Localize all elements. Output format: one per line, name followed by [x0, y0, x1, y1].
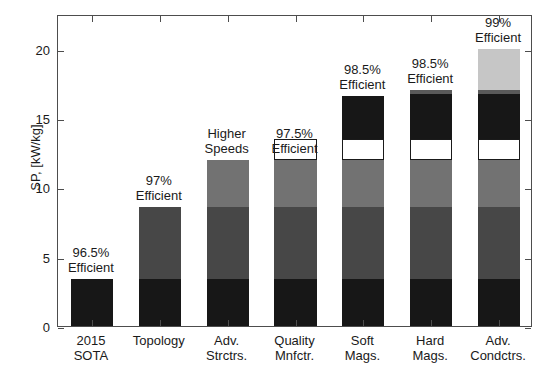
x-tick-label: Topology [133, 333, 185, 348]
x-tick-mark-top [228, 16, 229, 22]
plot-area [57, 15, 532, 327]
y-tick-label: 0 [10, 320, 50, 335]
x-tick-label-line: Mags. [413, 348, 448, 363]
bar-segment [342, 160, 384, 207]
x-tick-label: SoftMags. [345, 333, 380, 363]
y-tick-label: 15 [10, 112, 50, 127]
bar-segment [478, 279, 520, 326]
chart-figure: SP, [kW/kg] 05101520 2015SOTATopologyAdv… [0, 0, 555, 380]
x-tick-label: QualityMnfctr. [274, 333, 314, 363]
x-tick-mark [228, 320, 229, 326]
x-tick-label-line: Adv. [206, 333, 247, 348]
y-tick-mark [58, 259, 64, 260]
bar-segment [410, 160, 452, 207]
bar-segment [478, 90, 520, 94]
bar-annotation-line: Efficient [475, 30, 521, 45]
bar-segment [478, 94, 520, 138]
y-tick-label: 5 [10, 250, 50, 265]
x-tick-mark-top [160, 16, 161, 22]
y-tick-mark-right [525, 328, 531, 329]
x-tick-mark [499, 320, 500, 326]
bar-segment [410, 207, 452, 279]
x-tick-mark-top [431, 16, 432, 22]
bar-annotation-line: Efficient [407, 71, 453, 86]
bar-segment [410, 139, 452, 160]
bar-segment [342, 279, 384, 326]
y-tick-mark-right [525, 120, 531, 121]
bar-segment [410, 90, 452, 94]
bar-segment [274, 207, 316, 279]
bar-segment [342, 207, 384, 279]
bar-segment [478, 207, 520, 279]
bar-segment [139, 207, 181, 279]
bar-annotation-line: Higher [205, 126, 249, 141]
bar-segment [342, 139, 384, 160]
bar-segment [478, 160, 520, 207]
x-tick-mark-top [296, 16, 297, 22]
bar-annotation-line: 96.5% [68, 245, 114, 260]
x-tick-mark [92, 320, 93, 326]
y-tick-mark-right [525, 189, 531, 190]
y-tick-label: 10 [10, 181, 50, 196]
bar-segment [207, 160, 249, 207]
x-tick-mark [296, 320, 297, 326]
y-tick-label: 20 [10, 42, 50, 57]
bar-3[interactable] [274, 14, 316, 326]
x-tick-label: 2015SOTA [74, 333, 108, 363]
x-tick-label-line: Topology [133, 333, 185, 348]
bar-6[interactable] [478, 14, 520, 326]
y-tick-mark [58, 51, 64, 52]
x-tick-label: Adv.Strctrs. [206, 333, 247, 363]
x-tick-label-line: Soft [345, 333, 380, 348]
bar-segment [410, 279, 452, 326]
bar-annotation-line: 98.5% [407, 56, 453, 71]
bar-segment [139, 279, 181, 326]
bar-annotation: 97.5%Efficient [271, 126, 317, 156]
x-tick-label-line: Condctrs. [470, 348, 526, 363]
y-tick-mark [58, 189, 64, 190]
x-tick-label-line: Quality [274, 333, 314, 348]
bar-annotation-line: Efficient [136, 188, 182, 203]
y-tick-mark-right [525, 51, 531, 52]
bar-segment [207, 207, 249, 279]
bar-annotation: HigherSpeeds [205, 126, 249, 156]
bar-4[interactable] [342, 14, 384, 326]
x-tick-label-line: Hard [413, 333, 448, 348]
x-tick-label-line: 2015 [74, 333, 108, 348]
x-tick-label-line: SOTA [74, 348, 108, 363]
bar-annotation-line: Efficient [339, 77, 385, 92]
x-tick-label-line: Mags. [345, 348, 380, 363]
y-tick-mark [58, 120, 64, 121]
bar-segment [478, 49, 520, 91]
bar-segment [478, 139, 520, 160]
bar-annotation: 96.5%Efficient [68, 245, 114, 275]
bar-annotation: 98.5%Efficient [339, 62, 385, 92]
bar-2[interactable] [207, 14, 249, 326]
x-tick-label-line: Strctrs. [206, 348, 247, 363]
bar-annotation-line: Speeds [205, 141, 249, 156]
bar-segment [410, 94, 452, 138]
bar-segment [342, 96, 384, 139]
bar-annotation-line: 99% [475, 15, 521, 30]
x-tick-mark [363, 320, 364, 326]
y-axis-label: SP, [kW/kg] [28, 78, 43, 238]
bar-segment [71, 279, 113, 326]
x-tick-label-line: Adv. [470, 333, 526, 348]
x-tick-label: HardMags. [413, 333, 448, 363]
bar-segment [274, 160, 316, 207]
bar-annotation-line: 98.5% [339, 62, 385, 77]
bar-1[interactable] [139, 14, 181, 326]
bar-annotation: 97%Efficient [136, 173, 182, 203]
x-tick-label-line: Mnfctr. [274, 348, 314, 363]
x-tick-mark-top [92, 16, 93, 22]
bar-annotation: 98.5%Efficient [407, 56, 453, 86]
x-tick-mark [431, 320, 432, 326]
x-tick-mark [160, 320, 161, 326]
bar-annotation-line: Efficient [68, 260, 114, 275]
bar-segment [274, 279, 316, 326]
bar-0[interactable] [71, 14, 113, 326]
y-tick-mark [58, 328, 64, 329]
bar-annotation-line: 97% [136, 173, 182, 188]
bar-segment [207, 279, 249, 326]
bar-annotation-line: 97.5% [271, 126, 317, 141]
